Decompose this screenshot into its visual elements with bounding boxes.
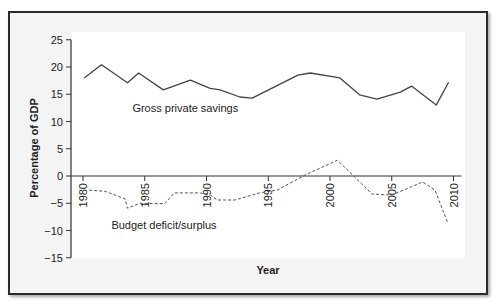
y-tick-label: 5 <box>57 143 63 155</box>
x-tick-label: 2010 <box>448 183 460 207</box>
line-chart: 2520151050−5−10−15 198019851990199520002… <box>0 0 499 306</box>
x-tick-label: 2000 <box>324 183 336 207</box>
y-tick-label: 15 <box>51 88 63 100</box>
y-tick-label: −10 <box>44 225 63 237</box>
y-tick-label: −5 <box>50 197 63 209</box>
y-tick-label: 25 <box>51 34 63 46</box>
x-axis-title: Year <box>256 264 280 276</box>
y-axis-title: Percentage of GDP <box>28 98 40 198</box>
y-tick-label: 10 <box>51 116 63 128</box>
y-tick-label: −15 <box>44 252 63 264</box>
budget-deficit-label: Budget deficit/surplus <box>111 219 217 231</box>
x-tick-label: 1980 <box>77 183 89 207</box>
y-tick-label: 20 <box>51 61 63 73</box>
y-tick-label: 0 <box>57 170 63 182</box>
y-axis: 2520151050−5−10−15 <box>44 34 71 264</box>
x-tick-label: 1995 <box>262 183 274 207</box>
gross-savings-label: Gross private savings <box>132 102 238 114</box>
